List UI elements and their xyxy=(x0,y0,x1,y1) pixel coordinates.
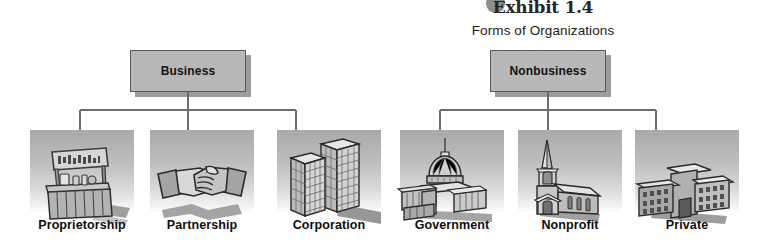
cell-partnership: Partnership xyxy=(150,130,254,248)
cell-label-proprietorship: Proprietorship xyxy=(18,218,146,232)
exhibit-figure: Exhibit 1.4 Forms of Organizations Busin… xyxy=(0,0,759,248)
node-nonbusiness: Nonbusiness xyxy=(490,50,606,92)
node-nonbusiness-label: Nonbusiness xyxy=(510,64,587,78)
cell-label-corporation: Corporation xyxy=(265,218,393,232)
capitol-building-icon xyxy=(400,130,504,226)
exhibit-number-label: Exhibit 1.4 xyxy=(493,0,593,17)
handshake-icon xyxy=(150,130,254,226)
node-business-label: Business xyxy=(161,64,216,78)
cell-label-nonprofit: Nonprofit xyxy=(506,218,634,232)
cell-label-partnership: Partnership xyxy=(138,218,266,232)
church-icon xyxy=(518,130,622,226)
exhibit-header: Exhibit 1.4 Forms of Organizations xyxy=(378,0,708,38)
cell-nonprofit: Nonprofit xyxy=(518,130,622,248)
cell-private: Private xyxy=(635,130,739,248)
institution-building-icon xyxy=(635,130,739,226)
exhibit-subtitle: Forms of Organizations xyxy=(378,23,708,38)
node-business-box: Business xyxy=(130,50,246,92)
cell-government: Government xyxy=(400,130,504,248)
illustration-row: Proprietorship xyxy=(0,130,759,248)
cell-label-government: Government xyxy=(388,218,516,232)
cell-corporation: Corporation xyxy=(277,130,381,248)
node-nonbusiness-box: Nonbusiness xyxy=(490,50,606,92)
skyscrapers-icon xyxy=(277,130,381,226)
cell-label-private: Private xyxy=(623,218,751,232)
exhibit-title-row: Exhibit 1.4 xyxy=(378,0,708,17)
cell-proprietorship: Proprietorship xyxy=(30,130,134,248)
branch-nonbusiness: Nonbusiness xyxy=(383,50,713,135)
node-business: Business xyxy=(130,50,246,92)
lemonade-stand-icon xyxy=(30,130,134,226)
branch-business: Business xyxy=(23,50,353,135)
